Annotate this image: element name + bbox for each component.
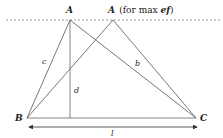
label-a-max: A (for max ef) <box>107 5 174 15</box>
side-b <box>70 20 196 118</box>
side-c-max <box>113 20 196 118</box>
label-side-b: b <box>135 59 140 68</box>
label-side-c: c <box>42 57 47 66</box>
side-c <box>27 20 70 118</box>
label-length-l: l <box>111 129 114 138</box>
label-b-vertex: B <box>14 113 23 123</box>
label-height-d: d <box>74 86 79 95</box>
label-c-vertex: C <box>200 113 208 123</box>
triangle-diagram: A A (for max ef) B C c b d l <box>0 0 223 138</box>
label-a: A <box>65 5 73 15</box>
